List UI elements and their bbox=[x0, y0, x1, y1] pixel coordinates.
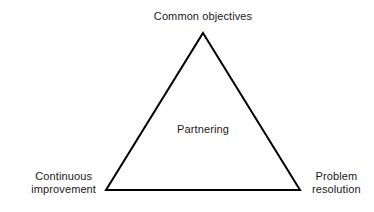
vertex-label-bottom-right-line-2: resolution bbox=[312, 183, 361, 196]
vertex-label-top-line-1: Common objectives bbox=[154, 10, 252, 23]
vertex-label-bottom-right: Problem resolution bbox=[312, 170, 361, 196]
vertex-label-bottom-left-line-1: Continuous bbox=[31, 170, 96, 183]
center-label-partnering: Partnering bbox=[177, 123, 229, 136]
vertex-label-bottom-left-line-2: improvement bbox=[31, 183, 96, 196]
triangle-outline bbox=[106, 33, 300, 190]
center-label-text: Partnering bbox=[177, 123, 229, 136]
vertex-label-bottom-right-line-1: Problem bbox=[312, 170, 361, 183]
vertex-label-top: Common objectives bbox=[154, 10, 252, 23]
diagram-canvas: Common objectives Partnering Continuous … bbox=[0, 0, 374, 212]
vertex-label-bottom-left: Continuous improvement bbox=[31, 170, 96, 196]
